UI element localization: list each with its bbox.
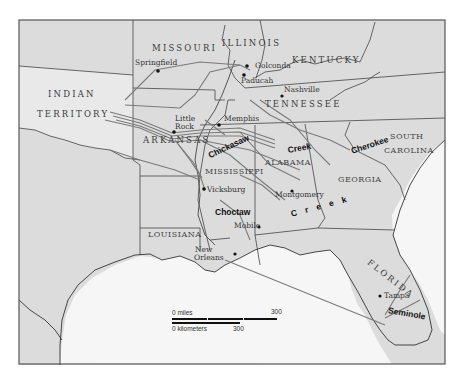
- label-south-carolina-2: CAROLINA: [384, 147, 434, 155]
- removal-map: MISSOURI ILLINOIS KENTUCKY TENNESSEE IND…: [0, 0, 465, 385]
- label-indian-territory-1: INDIAN: [48, 90, 96, 99]
- label-little-rock-2: Rock: [175, 123, 194, 131]
- label-mississippi: MISSISSIPPI: [205, 168, 264, 176]
- label-tampa: Tampa: [384, 292, 409, 300]
- label-tennessee: TENNESSEE: [265, 100, 342, 109]
- label-south-carolina-1: SOUTH: [390, 133, 424, 141]
- label-golconda: Golconda: [255, 62, 291, 70]
- label-paducah: Paducah: [241, 77, 273, 85]
- label-illinois: ILLINOIS: [222, 39, 281, 48]
- label-springfield: Springfield: [135, 59, 177, 67]
- label-nashville: Nashville: [284, 86, 320, 94]
- label-mobile: Mobile: [234, 222, 260, 230]
- label-choctaw: Choctaw: [215, 208, 250, 217]
- label-alabama: ALABAMA: [265, 159, 311, 167]
- label-kentucky: KENTUCKY: [292, 56, 361, 65]
- label-montgomery: Montgomery: [275, 191, 324, 199]
- scale-miles-label: 0 miles: [172, 310, 193, 317]
- scale-km-max: 300: [233, 326, 244, 333]
- label-new-orleans-2: Orleans: [194, 254, 224, 262]
- label-indian-territory-2: TERRITORY: [37, 110, 109, 119]
- label-missouri: MISSOURI: [152, 44, 217, 53]
- label-louisiana: LOUISIANA: [148, 231, 201, 239]
- label-arkansas: ARKANSAS: [143, 136, 211, 145]
- scale-km-label: 0 kilometers: [172, 326, 207, 333]
- label-georgia: GEORGIA: [338, 176, 382, 184]
- label-vicksburg: Vicksburg: [207, 186, 245, 194]
- scale-miles-max: 300: [271, 309, 282, 316]
- label-memphis: Memphis: [224, 115, 259, 123]
